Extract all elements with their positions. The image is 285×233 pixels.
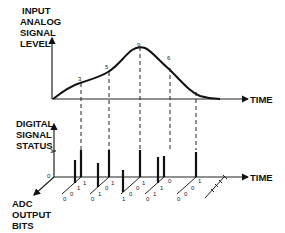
bit-label: 1 — [98, 191, 102, 197]
digital-sample-2: 1 0 1 0 — [90, 150, 115, 202]
bit-label: 0 — [70, 191, 74, 197]
digital-ylabel-line1: DIGITAL — [16, 118, 53, 129]
bits-label-line3: BITS — [12, 220, 34, 231]
bit-label: 0 — [91, 196, 95, 202]
bit-label: 0 — [136, 185, 140, 191]
digital-ylabel-line2: SIGNAL — [16, 129, 52, 140]
bit-label: 0 — [63, 196, 67, 202]
bit-label: 1 — [77, 185, 81, 191]
bit-label: 1 — [160, 185, 164, 191]
bit-label: 0 — [129, 191, 133, 197]
analog-ylabel-line2: ANALOG — [20, 16, 61, 27]
digital-sample-1: 1 1 0 0 — [62, 150, 87, 202]
digital-sample-6 — [205, 175, 227, 198]
analog-xlabel: TIME — [250, 94, 273, 105]
bit-label: 1 — [111, 180, 115, 186]
bit-label: 1 — [198, 178, 202, 184]
sample-value-2: 5 — [105, 64, 109, 70]
adc-bits-axis — [34, 177, 54, 195]
analog-ylabel-line4: LEVEL — [20, 38, 51, 49]
bit-label: 1 — [153, 191, 157, 197]
sample-value-1: 3 — [78, 76, 82, 82]
bit-label: 0 — [191, 185, 195, 191]
digital-sample-4: 0 1 1 0 — [145, 156, 172, 202]
bit-label: 1 — [142, 180, 146, 186]
digital-sample-3: 1 0 0 1 — [121, 150, 146, 202]
adc-diagram: INPUT ANALOG SIGNAL LEVEL TIME 3 5 9 6 D… — [0, 0, 285, 233]
bit-label: 0 — [105, 185, 109, 191]
analog-signal-curve — [53, 47, 220, 99]
bits-label-line1: ADC — [12, 198, 33, 209]
sample-value-4: 6 — [167, 55, 171, 61]
analog-ylabel-line1: INPUT — [22, 5, 51, 16]
bit-label: 0 — [184, 191, 188, 197]
digital-ylabel-line3: STATUS — [16, 140, 53, 151]
tick-zero-label: 0 — [47, 173, 51, 179]
bit-label: 0 — [168, 178, 172, 184]
bits-label-line2: OUTPUT — [12, 209, 51, 220]
analog-ylabel-line3: SIGNAL — [20, 27, 56, 38]
bit-label: 0 — [146, 196, 150, 202]
bit-label: 1 — [122, 196, 126, 202]
bit-label: 1 — [83, 180, 87, 186]
bit-label: 0 — [177, 196, 181, 202]
digital-xlabel: TIME — [250, 172, 273, 183]
